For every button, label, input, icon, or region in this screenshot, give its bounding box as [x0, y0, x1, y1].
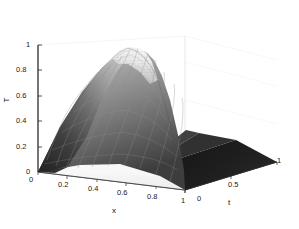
- t-tick-label-0: 0: [197, 195, 201, 203]
- x-tick-label-1: 1: [181, 197, 185, 205]
- x-tick-label-0_6: 0.6: [117, 189, 127, 197]
- z-tick-label-0_2: 0.2: [16, 143, 26, 151]
- z-tick-label-0_8: 0.8: [16, 66, 26, 74]
- z-tick-label-0_6: 0.6: [16, 92, 26, 100]
- x-tick-label-0_8: 0.8: [147, 193, 157, 201]
- t-tick-label-1: 1: [277, 157, 281, 165]
- t-tick-label-0_5: 0.5: [228, 181, 238, 189]
- x-tick-label-0_4: 0.4: [88, 185, 98, 193]
- z-axis-title: T: [3, 98, 11, 103]
- x-tick-label-0: 0: [29, 176, 33, 184]
- z-tick-label-0_4: 0.4: [16, 117, 26, 125]
- surface-plot-figure: 1 0.8 0.6 0.4 0.2 0 T 0 0.2 0.4 0.6 0.8 …: [0, 0, 299, 229]
- z-axis: [38, 45, 42, 172]
- t-axis-title: t: [228, 199, 230, 207]
- x-tick-label-0_2: 0.2: [58, 181, 68, 189]
- z-tick-label-1: 1: [26, 41, 30, 49]
- x-axis-title: x: [112, 207, 116, 215]
